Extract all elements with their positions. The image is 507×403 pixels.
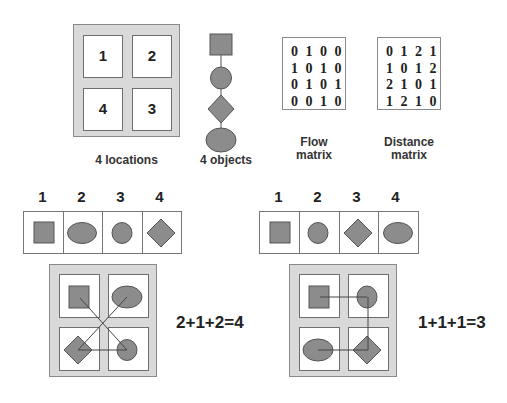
flow-matrix-row: 0 1 0 0 [291, 44, 345, 61]
left-assignment-grid [49, 264, 157, 377]
locations-caption: 4 locations [73, 153, 180, 167]
grid-cell [348, 274, 389, 318]
strip-cell [103, 212, 143, 253]
strip-cell [64, 212, 104, 253]
location-label: 4 [84, 100, 122, 117]
strip-cell [260, 212, 300, 253]
object-square-icon [210, 34, 232, 55]
left-assignment-strip [23, 211, 182, 254]
strip-cell [340, 212, 380, 253]
distance-matrix: 0 1 2 1 1 0 1 2 2 1 0 1 1 2 1 0 [377, 37, 441, 110]
locations-grid: 1 2 4 3 [73, 24, 180, 137]
left-position-labels: 1 2 3 4 [23, 188, 179, 205]
flow-matrix-row: 0 0 1 0 [291, 94, 345, 111]
location-cell-3: 3 [132, 88, 172, 131]
location-cell-4: 4 [83, 88, 123, 131]
grid-cell [108, 327, 149, 371]
grid-cell [59, 327, 100, 371]
strip-cell [379, 212, 418, 253]
strip-cell [24, 212, 64, 253]
position-label: 1 [259, 188, 298, 205]
strip-cell [300, 212, 340, 253]
strip-cell [143, 212, 182, 253]
right-cost-equation: 1+1+1=3 [418, 313, 486, 333]
objects-caption: 4 objects [196, 153, 256, 167]
grid-cell [108, 274, 149, 318]
position-label: 2 [298, 188, 337, 205]
object-ellipse-icon [206, 128, 236, 152]
distance-matrix-row: 1 2 1 0 [386, 94, 440, 111]
flow-matrix: 0 1 0 0 1 0 1 0 0 1 0 1 0 0 1 0 [282, 37, 346, 110]
grid-cell [59, 274, 100, 318]
flow-matrix-caption: Flow matrix [282, 136, 346, 162]
distance-matrix-row: 2 1 0 1 [386, 77, 440, 94]
location-label: 2 [133, 47, 171, 64]
object-circle-icon [211, 67, 232, 89]
flow-matrix-row: 1 0 1 0 [291, 61, 345, 78]
right-assignment-grid [289, 264, 397, 377]
position-label: 3 [101, 188, 140, 205]
distance-caption-line2: matrix [373, 149, 445, 162]
location-label: 3 [133, 100, 171, 117]
right-assignment-strip [259, 211, 419, 254]
location-cell-2: 2 [132, 35, 172, 78]
position-label: 4 [376, 188, 415, 205]
flow-caption-line2: matrix [282, 149, 346, 162]
right-position-labels: 1 2 3 4 [259, 188, 415, 205]
left-cost-equation: 2+1+2=4 [176, 313, 244, 333]
location-label: 1 [84, 47, 122, 64]
position-label: 1 [23, 188, 62, 205]
object-diamond-icon [208, 95, 234, 123]
grid-cell [348, 327, 389, 371]
location-cell-1: 1 [83, 35, 123, 78]
distance-matrix-row: 1 0 1 2 [386, 61, 440, 78]
grid-cell [299, 274, 340, 318]
position-label: 3 [337, 188, 376, 205]
position-label: 2 [62, 188, 101, 205]
flow-matrix-row: 0 1 0 1 [291, 77, 345, 94]
position-label: 4 [140, 188, 179, 205]
distance-matrix-caption: Distance matrix [373, 136, 445, 162]
distance-matrix-row: 0 1 2 1 [386, 44, 440, 61]
grid-cell [299, 327, 340, 371]
